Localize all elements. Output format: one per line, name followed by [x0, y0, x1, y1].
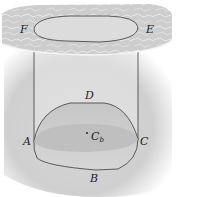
label-cb-sub: b	[99, 136, 104, 144]
label-b: B	[89, 172, 98, 185]
surface-cross-section	[34, 16, 138, 42]
label-d: D	[84, 89, 94, 102]
center-of-buoyancy-dot	[86, 132, 88, 134]
buoyancy-diagram: F E D A C B Cb	[0, 0, 213, 197]
floating-body	[34, 103, 138, 170]
label-c: C	[140, 135, 149, 148]
label-e: E	[145, 23, 154, 36]
label-a: A	[22, 135, 31, 148]
label-f: F	[19, 23, 28, 36]
